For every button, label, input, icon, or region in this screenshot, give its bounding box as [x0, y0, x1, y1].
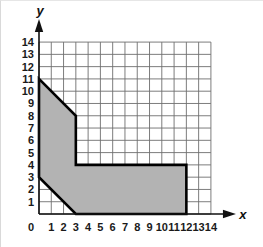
y-axis-arrow-icon — [35, 19, 43, 32]
y-tick-label: 14 — [22, 36, 35, 48]
y-tick-label: 12 — [22, 61, 34, 73]
x-tick-label: 3 — [73, 221, 79, 233]
x-tick-label: 6 — [110, 221, 116, 233]
x-tick-label: 1 — [48, 221, 54, 233]
x-tick-label: 7 — [122, 221, 128, 233]
x-axis-name-label: x — [238, 207, 247, 222]
origin-tick-label: 0 — [28, 221, 34, 233]
coordinate-grid-figure: 012345678910111213141234567891011121314y… — [0, 0, 263, 247]
x-tick-label: 11 — [168, 221, 180, 233]
x-tick-label: 10 — [156, 221, 168, 233]
y-tick-label: 3 — [28, 171, 34, 183]
y-axis-name-label: y — [35, 3, 44, 18]
y-tick-label: 9 — [28, 97, 34, 109]
x-tick-label: 12 — [180, 221, 192, 233]
y-tick-label: 7 — [28, 122, 34, 134]
plot-canvas: 012345678910111213141234567891011121314y… — [1, 1, 263, 247]
x-tick-label: 4 — [85, 221, 92, 233]
y-tick-label: 10 — [22, 85, 34, 97]
y-tick-label: 13 — [22, 48, 34, 60]
y-tick-label: 1 — [28, 196, 34, 208]
x-tick-label: 5 — [97, 221, 103, 233]
x-tick-label: 9 — [146, 221, 152, 233]
y-tick-label: 11 — [22, 73, 34, 85]
x-tick-label: 13 — [193, 221, 205, 233]
y-tick-label: 2 — [28, 183, 34, 195]
y-tick-label: 8 — [28, 110, 34, 122]
x-axis-arrow-icon — [223, 210, 236, 218]
y-tick-label: 5 — [28, 147, 34, 159]
x-tick-label: 14 — [205, 221, 218, 233]
x-tick-label: 8 — [134, 221, 140, 233]
y-tick-label: 6 — [28, 134, 34, 146]
y-tick-label: 4 — [28, 159, 35, 171]
x-tick-label: 2 — [60, 221, 66, 233]
